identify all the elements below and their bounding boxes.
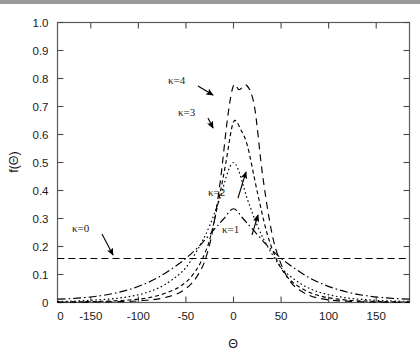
- x-tick-label: -150: [79, 310, 102, 322]
- figure-container: 00.10.20.30.40.50.60.70.80.91.0 -150-100…: [0, 0, 420, 359]
- x-tick-label: 0: [230, 310, 236, 322]
- x-tick-label: 50: [275, 310, 288, 322]
- y-tick-label: 0.5: [33, 157, 49, 169]
- y-tick-label: 0: [42, 297, 48, 309]
- data-series-group: [58, 84, 410, 302]
- x-axis-tick-labels: -150-100-500501001500: [57, 310, 385, 322]
- chart-plot-area: 00.10.20.30.40.50.60.70.80.91.0 -150-100…: [0, 0, 420, 359]
- y-axis-title: f(Θ): [7, 151, 21, 173]
- x-tick-label: -100: [127, 310, 150, 322]
- x-origin-label: 0: [57, 310, 63, 322]
- y-tick-label: 0.8: [33, 73, 49, 85]
- annotation-label-κ-1: κ=1: [222, 223, 239, 235]
- x-tick-label: 100: [319, 310, 338, 322]
- y-tick-label: 0.7: [33, 101, 49, 113]
- curve-κ-3: [58, 120, 410, 302]
- annotation-label-κ-0: κ=0: [72, 222, 90, 234]
- annotation-label-κ-4: κ=4: [168, 74, 186, 86]
- annotation-label-κ-2: κ=2: [208, 186, 225, 198]
- y-tick-label: 0.9: [33, 45, 49, 57]
- y-tick-label: 0.1: [33, 269, 49, 281]
- annotation-arrow-κ-4: [198, 86, 213, 95]
- annotation-label-κ-3: κ=3: [178, 106, 196, 118]
- annotation-arrow-κ-2: [238, 172, 246, 198]
- y-tick-label: 0.2: [33, 241, 49, 253]
- y-tick-label: 0.6: [33, 129, 49, 141]
- curve-κ-4: [58, 84, 410, 302]
- chart-svg: 00.10.20.30.40.50.60.70.80.91.0 -150-100…: [0, 0, 420, 359]
- y-tick-label: 0.3: [33, 213, 49, 225]
- x-tick-label: -50: [178, 310, 195, 322]
- x-axis-title: Θ: [228, 337, 238, 351]
- y-tick-label: 0.4: [33, 185, 50, 197]
- y-tick-label: 1.0: [33, 17, 49, 29]
- x-tick-label: 150: [367, 310, 386, 322]
- annotation-arrow-κ-0: [102, 234, 113, 255]
- annotation-arrow-κ-3: [208, 118, 213, 128]
- y-axis-tick-labels: 00.10.20.30.40.50.60.70.80.91.0: [33, 17, 50, 309]
